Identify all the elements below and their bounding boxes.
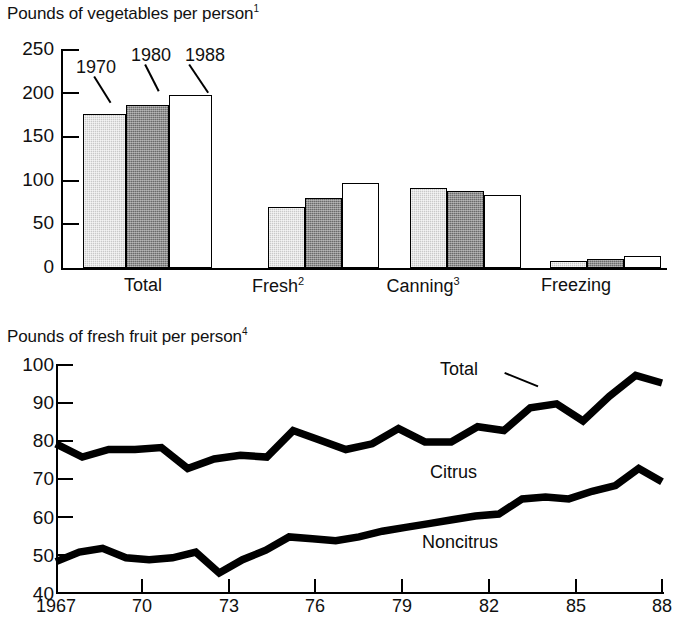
bar-freezing-1970 bbox=[550, 261, 587, 268]
series-label-citrus: Citrus bbox=[430, 462, 477, 483]
bar-freezing-1980 bbox=[587, 259, 624, 268]
vegetables-bar-chart-panel: Pounds of vegetables per person1 250 200… bbox=[0, 0, 676, 302]
bar-group-label-canning: Canning3 bbox=[348, 275, 498, 297]
bar-series-note-1988: 1988 bbox=[185, 45, 225, 66]
bar-series-note-1970: 1970 bbox=[76, 57, 116, 78]
bar-fresh-1970 bbox=[268, 207, 305, 268]
bar-ytick-0: 0 bbox=[0, 256, 54, 278]
bar-total-1980 bbox=[126, 105, 169, 268]
bar-canning-1980 bbox=[447, 191, 484, 268]
bar-fresh-1988 bbox=[342, 183, 379, 268]
series-label-noncitrus: Noncitrus bbox=[422, 532, 498, 553]
bar-chart-title: Pounds of vegetables per person1 bbox=[7, 3, 259, 24]
bar-canning-1970 bbox=[410, 188, 447, 268]
total-line bbox=[56, 375, 662, 468]
bar-canning-1988 bbox=[484, 195, 521, 268]
figure-root: Pounds of vegetables per person1 250 200… bbox=[0, 0, 676, 619]
bar-group-label-fresh: Fresh2 bbox=[208, 275, 348, 297]
bar-group-label-freezing: Freezing bbox=[496, 275, 656, 296]
series-label-total: Total bbox=[440, 359, 478, 380]
bar-ytick-100: 100 bbox=[0, 169, 54, 191]
bar-fresh-1980 bbox=[305, 198, 342, 268]
bar-ytick-200: 200 bbox=[0, 82, 54, 104]
bar-ytick-50: 50 bbox=[0, 212, 54, 234]
bar-freezing-1988 bbox=[624, 256, 661, 268]
fresh-fruit-line-chart-panel: Pounds of fresh fruit per person4 100 90… bbox=[0, 302, 676, 619]
bar-plot-area bbox=[61, 49, 667, 268]
bar-x-axis bbox=[61, 268, 667, 270]
bar-ytick-250: 250 bbox=[0, 38, 54, 60]
bar-ytick-150: 150 bbox=[0, 125, 54, 147]
line-plot-area bbox=[0, 302, 676, 619]
bar-total-1970 bbox=[83, 114, 126, 268]
bar-series-note-1980: 1980 bbox=[131, 45, 171, 66]
noncitrus-line bbox=[56, 469, 662, 574]
bar-group-label-total: Total bbox=[88, 275, 198, 296]
bar-total-1988 bbox=[169, 95, 212, 268]
